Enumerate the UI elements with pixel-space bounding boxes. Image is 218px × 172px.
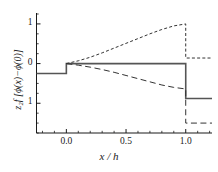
x-axis-title: x / h [0,150,218,162]
x-tick-label: 0.5 [108,136,144,146]
y-tick-label: 0 [11,57,33,67]
figure: z₂f [ϕ(x)−ϕ(0)] x / h 0.00.51.0101 [0,0,218,172]
y-axis-title: z₂f [ϕ(x)−ϕ(0)] [12,25,23,135]
series-line-long-dashed [66,64,212,124]
x-tick-label: 0.0 [48,136,84,146]
series-line-short-dashed [66,24,212,64]
y-tick-label: 1 [11,96,33,106]
y-tick-label: 1 [11,17,33,27]
x-tick-label: 1.0 [168,136,204,146]
